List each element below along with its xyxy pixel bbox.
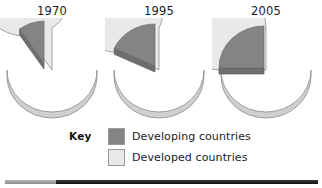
legend-item-developed: Developed countries [108, 147, 248, 167]
bottom-divider-dark-segment [56, 180, 318, 184]
pie-chart-1970-graphic [0, 18, 106, 122]
pie-chart-2005-graphic [212, 18, 320, 122]
pie-panel-1995: 1995 [105, 0, 213, 122]
legend-label-developing: Developing countries [132, 130, 251, 143]
chart-legend: Key Developing countries Developed count… [0, 124, 322, 172]
legend-swatch-developing [108, 128, 125, 145]
pie-year-label-1995: 1995 [105, 4, 213, 18]
pie-1970-developed-slice [0, 18, 97, 118]
pie-panel-1970: 1970 [0, 0, 106, 122]
pie-chart-panels: 1970 1995 [0, 0, 322, 122]
legend-title: Key [69, 130, 92, 142]
legend-label-developed: Developed countries [132, 151, 248, 164]
legend-swatch-developed [108, 149, 125, 166]
legend-item-developing: Developing countries [108, 126, 251, 146]
pie-year-label-1970: 1970 [0, 4, 106, 18]
bottom-divider [5, 180, 318, 184]
bottom-divider-light-segment [5, 180, 56, 184]
pie-1970-developing-slice [20, 21, 44, 69]
pie-panel-2005: 2005 [212, 0, 320, 122]
pie-year-label-2005: 2005 [212, 4, 320, 18]
pie-chart-1995-graphic [105, 18, 213, 122]
